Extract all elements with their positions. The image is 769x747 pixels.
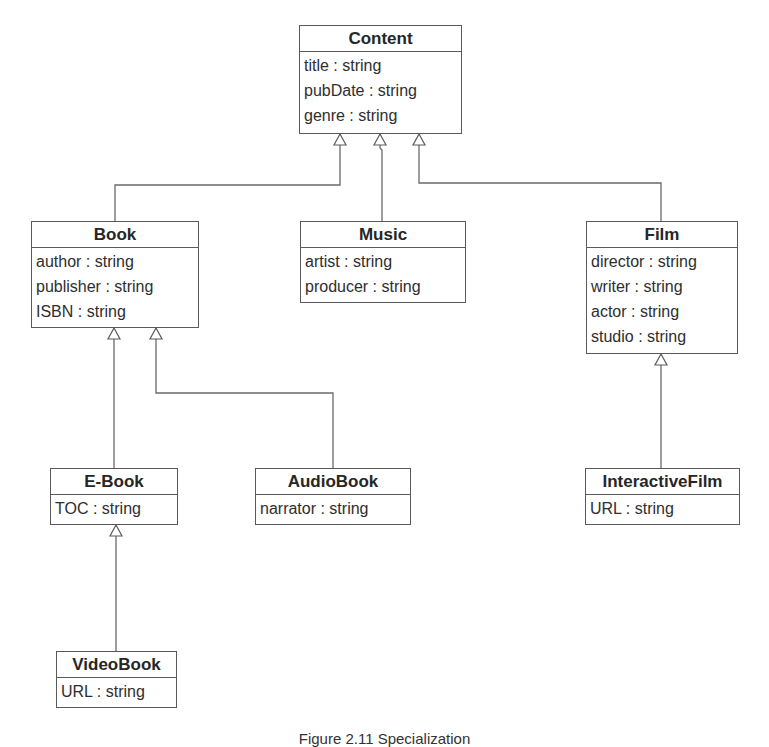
generalization-arrow-icon — [655, 354, 667, 365]
class-videobook: VideoBook URL : string — [56, 651, 177, 708]
attribute: director : string — [591, 249, 737, 274]
attribute: URL : string — [61, 679, 176, 704]
attribute: URL : string — [590, 496, 739, 521]
generalization-arrow-icon — [110, 525, 122, 536]
class-name: Book — [32, 222, 198, 248]
attribute: genre : string — [304, 103, 461, 128]
class-book: Book author : string publisher : string … — [31, 221, 199, 328]
attribute: artist : string — [305, 249, 465, 274]
generalization-arrow-icon — [150, 328, 162, 339]
generalization-arrow-icon — [334, 134, 346, 145]
attribute: TOC : string — [55, 496, 177, 521]
class-name: E-Book — [51, 469, 177, 495]
class-name: Content — [300, 26, 461, 52]
generalization-arrow-icon — [108, 328, 120, 339]
attribute: ISBN : string — [36, 299, 198, 324]
attribute: pubDate : string — [304, 78, 461, 103]
class-name: VideoBook — [57, 652, 176, 678]
class-name: Film — [587, 222, 737, 248]
class-name: Music — [301, 222, 465, 248]
figure-caption: Figure 2.11 Specialization — [0, 730, 769, 747]
attribute: title : string — [304, 53, 461, 78]
class-ebook: E-Book TOC : string — [50, 468, 178, 525]
generalization-arrow-icon — [413, 134, 425, 145]
class-name: AudioBook — [256, 469, 410, 495]
attribute: producer : string — [305, 274, 465, 299]
connector-book-content — [115, 134, 340, 221]
class-film: Film director : string writer : string a… — [586, 221, 738, 354]
class-audiobook: AudioBook narrator : string — [255, 468, 411, 525]
class-content: Content title : string pubDate : string … — [299, 25, 462, 134]
attribute: studio : string — [591, 324, 737, 349]
class-name: InteractiveFilm — [586, 469, 739, 495]
class-interactivefilm: InteractiveFilm URL : string — [585, 468, 740, 525]
connector-audiobook-book — [156, 328, 333, 468]
class-music: Music artist : string producer : string — [300, 221, 466, 303]
connector-film-content — [419, 134, 661, 221]
connector-music-content — [380, 134, 382, 221]
attribute: publisher : string — [36, 274, 198, 299]
attribute: author : string — [36, 249, 198, 274]
attribute: narrator : string — [260, 496, 410, 521]
attribute: actor : string — [591, 299, 737, 324]
attribute: writer : string — [591, 274, 737, 299]
generalization-arrow-icon — [374, 134, 386, 145]
